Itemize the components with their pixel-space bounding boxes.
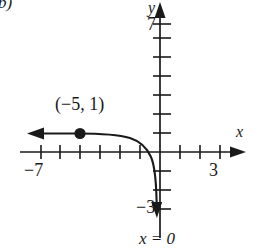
x-axis-arrowhead-icon (230, 147, 246, 158)
y-axis-ticks-positive (153, 24, 171, 133)
x-tick-label-neg7: −7 (24, 161, 43, 179)
y-tick-label-7: 7 (147, 15, 156, 33)
x-axis-label: x (236, 124, 243, 140)
plot-canvas (0, 0, 261, 252)
curve-path (36, 134, 157, 207)
y-tick-label-neg3: −3 (136, 198, 155, 216)
graph-figure: b) y x 7 −3 −7 3 (−5, 1) x = 0 (0, 0, 261, 252)
figure-corner-label: b) (0, 0, 12, 11)
curve-left-arrowhead-icon (27, 128, 44, 140)
y-axis-arrowhead-icon (155, 2, 166, 18)
point-coordinate-label: (−5, 1) (55, 95, 104, 113)
asymptote-equation-label: x = 0 (139, 230, 175, 247)
data-point-marker (74, 128, 85, 139)
x-tick-label-3: 3 (209, 161, 218, 179)
